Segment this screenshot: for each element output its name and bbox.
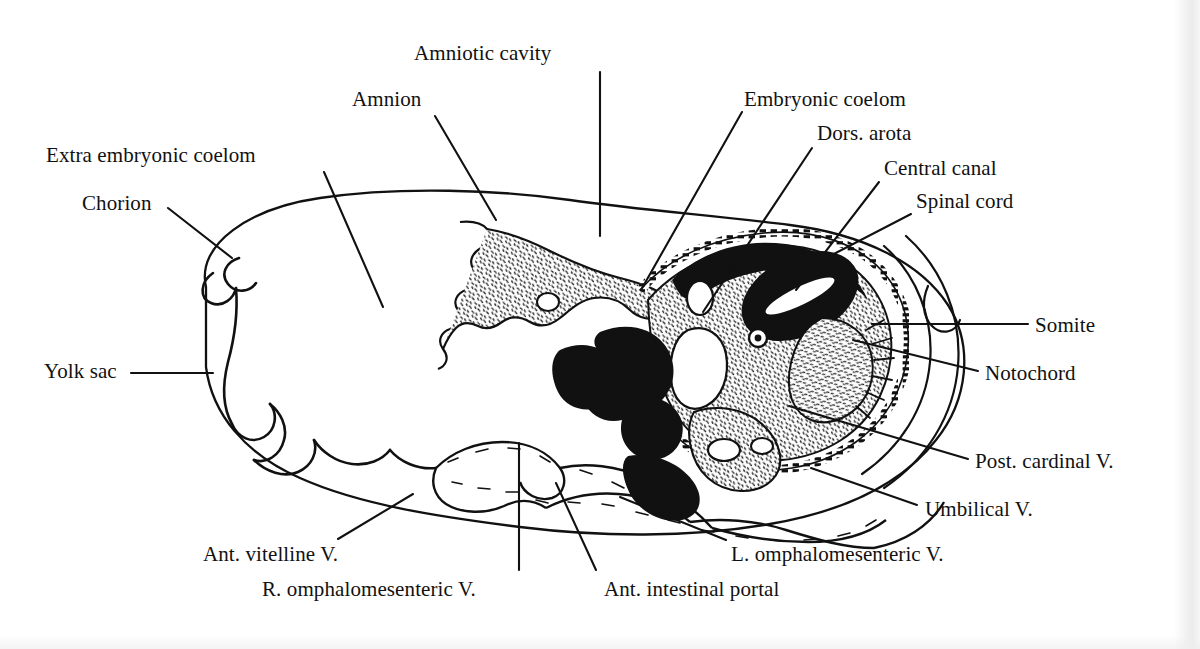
label-spinal-cord: Spinal cord [916,190,1013,212]
label-amnion: Amnion [352,88,421,110]
label-yolk-sac: Yolk sac [44,360,117,382]
label-central-canal: Central canal [884,157,997,179]
label-l-omphalomesenteric-v: L. omphalomesenteric V. [731,543,944,565]
label-dors-arota: Dors. arota [817,122,911,144]
label-somite: Somite [1035,314,1095,336]
label-post-cardinal-v: Post. cardinal V. [975,450,1114,472]
figure-canvas: Amniotic cavityAmnionEmbryonic coelomDor… [0,0,1200,649]
structure-yolk-sac-outline [203,258,436,474]
leader-chorion [168,208,232,258]
leader-ant-vitelline-v [338,494,413,539]
label-notochord: Notochord [985,362,1076,384]
label-ant-intestinal-portal: Ant. intestinal portal [604,578,779,600]
label-amniotic-cavity: Amniotic cavity [414,42,551,64]
label-extra-embryonic-coelom: Extra embryonic coelom [46,144,256,166]
structure-embryo-body [640,232,908,491]
structure-dorsal-aorta [687,281,713,315]
label-r-omphalomesenteric-v: R. omphalomesenteric V. [262,578,476,600]
embryo-section-drawing [0,0,1200,649]
label-ant-vitelline-v: Ant. vitelline V. [203,543,338,565]
leader-amnion [435,116,496,220]
label-chorion: Chorion [82,192,152,214]
structure-notochord-body [749,329,767,347]
label-embryonic-coelom: Embryonic coelom [744,88,906,110]
structure-post-cardinal-vein [708,439,740,461]
label-umbilical-v: Umbilical V. [925,498,1033,520]
